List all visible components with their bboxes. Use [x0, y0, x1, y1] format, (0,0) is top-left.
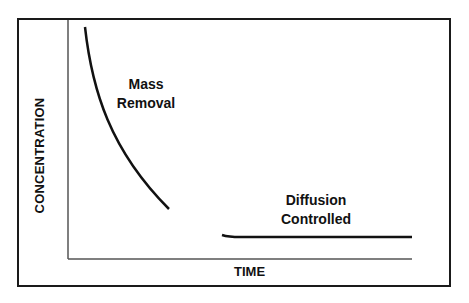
plot-area	[0, 0, 469, 303]
mass-removal-annotation: Mass Removal	[108, 75, 184, 113]
diffusion-controlled-annotation: Diffusion Controlled	[268, 191, 364, 229]
annotation-line: Controlled	[268, 210, 364, 229]
annotation-line: Diffusion	[268, 191, 364, 210]
x-axis-label: TIME	[234, 264, 265, 279]
diffusion-controlled-line	[222, 235, 412, 237]
y-axis-label: CONCENTRATION	[33, 97, 48, 213]
annotation-line: Mass	[108, 75, 184, 94]
mass-removal-curve	[85, 27, 169, 209]
y-axis-label-container: CONCENTRATION	[20, 60, 60, 250]
annotation-line: Removal	[108, 94, 184, 113]
